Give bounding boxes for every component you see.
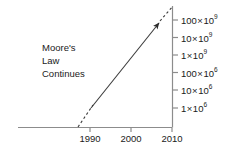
- trend-line-dashed-lower: [78, 105, 93, 127]
- y-label-exponent: 6: [214, 66, 218, 73]
- y-label-base: 10: [198, 85, 209, 96]
- trend-line-solid: [91, 23, 159, 108]
- y-label-base: 10: [193, 50, 204, 61]
- y-axis-label-100e6: 100×106: [181, 67, 218, 78]
- y-axis-label-10e9: 10×109: [181, 32, 212, 43]
- y-axis-label-1e6: 1×106: [181, 103, 207, 114]
- trend-line-dashed-upper: [160, 6, 173, 21]
- x-axis-label-2000: 2000: [120, 133, 141, 144]
- moores-law-annotation: Moore's Law Continues: [42, 41, 85, 80]
- annotation-line-2: Law: [42, 54, 85, 67]
- y-label-mantissa: 10: [181, 32, 192, 43]
- y-label-exponent: 6: [203, 101, 207, 108]
- y-axis-ticks: [173, 20, 179, 108]
- y-label-base: 10: [203, 15, 214, 26]
- x-axis-label-1990: 1990: [79, 133, 100, 144]
- y-axis-label-100e9: 100×109: [181, 15, 218, 26]
- y-label-mantissa: 100: [181, 15, 197, 26]
- x-axis-label-2010: 2010: [161, 133, 182, 144]
- y-label-base: 10: [203, 67, 214, 78]
- y-label-mantissa: 10: [181, 85, 192, 96]
- y-label-mantissa: 100: [181, 67, 197, 78]
- y-label-exponent: 6: [209, 83, 213, 90]
- y-label-exponent: 9: [209, 31, 213, 38]
- y-label-base: 10: [198, 32, 209, 43]
- annotation-line-3: Continues: [42, 67, 85, 80]
- y-label-base: 10: [193, 103, 204, 114]
- x-axis-ticks: [90, 128, 172, 133]
- y-axis-label-10e6: 10×106: [181, 85, 212, 96]
- y-axis-label-1e9: 1×109: [181, 50, 207, 61]
- moores-law-chart: Moore's Law Continues 100×109 10×109 1×1…: [0, 0, 230, 156]
- annotation-line-1: Moore's: [42, 41, 85, 54]
- y-label-exponent: 9: [203, 48, 207, 55]
- y-label-exponent: 9: [214, 13, 218, 20]
